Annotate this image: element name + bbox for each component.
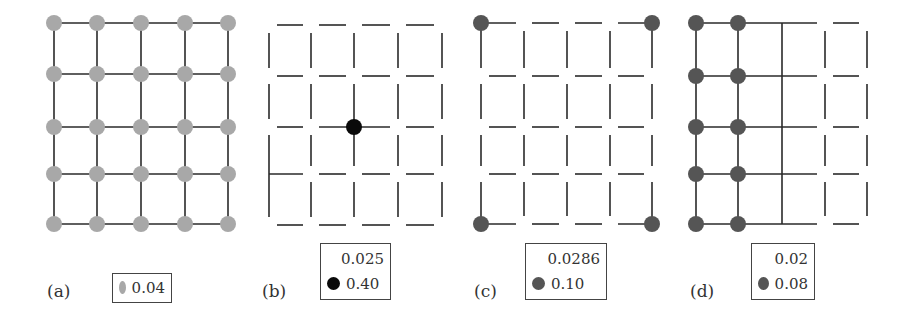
panel-a-node — [46, 66, 62, 82]
panel-a-node — [89, 166, 105, 182]
panel-a-node — [220, 15, 236, 31]
white-node-swatch-icon — [532, 252, 542, 265]
panel-label-d: (d) — [690, 281, 714, 301]
panel-d-node — [688, 119, 704, 135]
panel-a-node — [46, 15, 62, 31]
panel-a-node — [177, 15, 193, 31]
panel-d-node — [730, 15, 746, 31]
panel-a-node — [89, 119, 105, 135]
panel-a-node — [133, 119, 149, 135]
panel-a-node — [133, 166, 149, 182]
panel-a-node — [89, 216, 105, 232]
panel-a-node — [133, 216, 149, 232]
legend-b: 0.025 0.40 — [320, 243, 391, 300]
black-node-swatch-icon — [327, 277, 340, 290]
legend-c: 0.0286 0.10 — [525, 243, 607, 300]
panel-d-node — [688, 15, 704, 31]
white-node-swatch-icon — [327, 252, 335, 265]
panel-a-node — [89, 66, 105, 82]
panel-d-node — [730, 166, 746, 182]
panel-d-node — [688, 68, 704, 84]
panel-a-node — [133, 66, 149, 82]
panel-a-node — [89, 15, 105, 31]
panel-a-node — [46, 119, 62, 135]
dark-gray-node-swatch-icon — [532, 277, 545, 290]
light-gray-node-swatch-icon — [119, 281, 126, 294]
panel-a-node — [177, 119, 193, 135]
dark-gray-node-swatch-icon — [758, 277, 769, 290]
legend-d-value-2: 0.08 — [775, 275, 808, 293]
panel-b-node — [346, 119, 362, 135]
legend-b-value-2: 0.40 — [346, 275, 379, 293]
panel-c-node — [644, 15, 660, 31]
panel-a-node — [220, 216, 236, 232]
panel-c-node — [644, 216, 660, 232]
panel-label-b: (b) — [262, 281, 286, 301]
legend-c-value-1: 0.0286 — [548, 250, 601, 268]
white-node-swatch-icon — [758, 252, 769, 265]
panel-d-node — [730, 68, 746, 84]
legend-d: 0.02 0.08 — [751, 243, 815, 300]
panel-d-node — [688, 216, 704, 232]
panel-label-a: (a) — [47, 281, 70, 301]
legend-a: 0.04 — [112, 273, 172, 303]
legend-b-value-1: 0.025 — [341, 250, 384, 268]
panel-a-node — [46, 166, 62, 182]
panel-a-node — [177, 166, 193, 182]
panel-c-node — [473, 216, 489, 232]
panel-a-node — [133, 15, 149, 31]
panel-a-node — [46, 216, 62, 232]
legend-a-value-1: 0.04 — [132, 279, 165, 297]
panel-a-node — [220, 119, 236, 135]
panel-c-node — [473, 15, 489, 31]
legend-c-value-2: 0.10 — [551, 275, 584, 293]
panel-a-node — [177, 216, 193, 232]
panel-a-node — [220, 166, 236, 182]
panel-d-node — [688, 166, 704, 182]
panel-d-node — [730, 216, 746, 232]
panel-a-node — [177, 66, 193, 82]
panel-label-c: (c) — [474, 281, 497, 301]
panel-d-node — [730, 119, 746, 135]
panel-a-node — [220, 66, 236, 82]
legend-d-value-1: 0.02 — [775, 250, 808, 268]
